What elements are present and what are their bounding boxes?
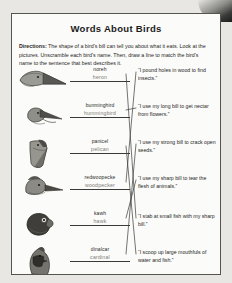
hummingbird-head-icon <box>16 100 68 134</box>
bird-row: redwoopecke woodpecker <box>16 172 136 206</box>
clue-sentence: “I use my long bill to get nectar from f… <box>138 102 216 118</box>
clue-sentence: “I scoop up large mouthfuls of water and… <box>138 248 216 264</box>
answer-line[interactable]: cardinal <box>70 254 130 262</box>
clue-sentence: “I use my strong bill to crack open seed… <box>138 138 216 154</box>
bird-row: panicel pelican <box>16 136 136 170</box>
worksheet-page: Words About Birds Directions: The shape … <box>11 13 221 275</box>
clue-sentence: “I use my sharp bill to tear the flesh o… <box>138 174 216 190</box>
bird-row: bunminghird hummingbird <box>16 100 136 134</box>
answer-line[interactable]: hummingbird <box>70 110 130 118</box>
clue-sentence: “I pound holes in wood to find insects.” <box>138 66 216 82</box>
name-block: bunminghird hummingbird <box>70 103 130 118</box>
bird-row: noreh heron <box>16 64 136 98</box>
bird-row: dinalcar cardinal <box>16 244 136 275</box>
scrambled-word: redwoopecke <box>70 175 130 181</box>
scrambled-word: kawh <box>70 211 130 217</box>
matching-grid: noreh heron bunminghird hummingbird <box>12 60 220 274</box>
pelican-head-icon <box>16 136 68 170</box>
hawk-head-icon <box>16 208 68 242</box>
scrambled-word: dinalcar <box>70 247 130 253</box>
answer-line[interactable]: pelican <box>70 146 130 154</box>
name-block: panicel pelican <box>70 139 130 154</box>
name-block: redwoopecke woodpecker <box>70 175 130 190</box>
scrambled-word: panicel <box>70 139 130 145</box>
name-block: kawh hawk <box>70 211 130 226</box>
answer-line[interactable]: woodpecker <box>70 182 130 190</box>
heron-head-icon <box>16 64 68 98</box>
directions-label: Directions: <box>19 43 47 49</box>
answer-line[interactable]: heron <box>70 74 130 82</box>
page-title: Words About Birds <box>12 23 220 34</box>
bird-row: kawh hawk <box>16 208 136 242</box>
scrambled-word: noreh <box>70 67 130 73</box>
clue-sentence: “I stab at small fish with my sharp bill… <box>138 212 216 228</box>
answer-line[interactable]: hawk <box>70 218 130 226</box>
cardinal-head-icon <box>16 244 68 275</box>
scrambled-word: bunminghird <box>70 103 130 109</box>
woodpecker-head-icon <box>16 172 68 206</box>
name-block: dinalcar cardinal <box>70 247 130 262</box>
name-block: noreh heron <box>70 67 130 82</box>
